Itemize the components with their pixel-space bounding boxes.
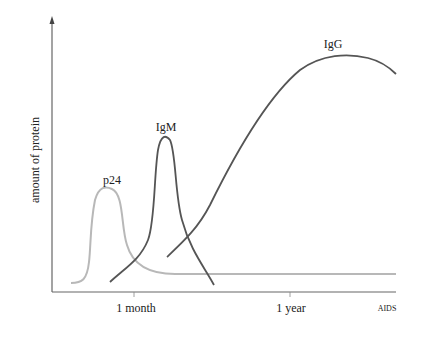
igm-curve — [110, 137, 214, 285]
x-tick-label-1-year: 1 year — [276, 301, 306, 315]
y-axis-label: amount of protein — [28, 117, 42, 203]
p24-curve — [71, 187, 396, 283]
igm-label: IgM — [156, 120, 177, 134]
igg-curve — [167, 55, 396, 257]
igg-label: IgG — [324, 37, 343, 51]
x-tick-label-1-month: 1 month — [116, 301, 156, 315]
p24-label: p24 — [103, 173, 121, 187]
x-end-label-aids: AIDS — [378, 304, 397, 313]
y-axis-arrow-icon — [50, 16, 55, 24]
protein-timeline-diagram: p24 IgM IgG 1 month 1 year AIDS amount o… — [0, 0, 439, 338]
